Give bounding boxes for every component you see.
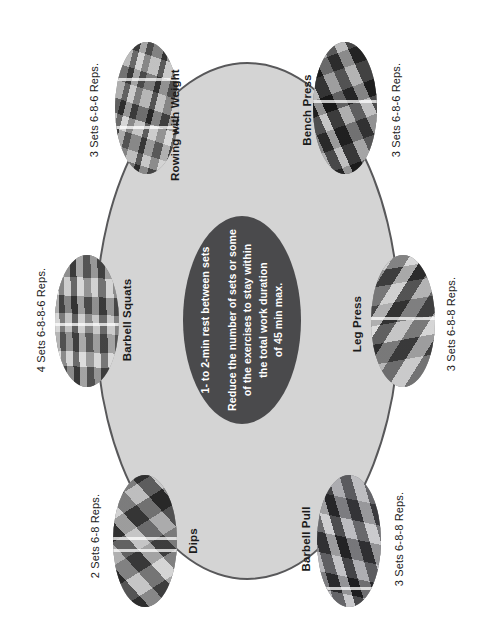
exercise-reps-leg-press: 3 Sets 6-8-8 Reps.: [445, 261, 457, 387]
exercise-name-dips: Dips: [187, 496, 199, 586]
photo-seam: [317, 587, 381, 590]
photo-seam: [113, 537, 177, 540]
exercise-photo-leg-press: [371, 255, 435, 387]
exercise-reps-barbell-pull: 3 Sets 6-8-8 Reps.: [393, 476, 405, 602]
exercise-name-barbell-squats: Barbell Squats: [121, 259, 133, 381]
exercise-photo-barbell-squats: [55, 255, 119, 387]
photo-seam: [55, 323, 119, 326]
photo-texture: [55, 255, 119, 387]
center-note-ellipse: 1- to 2-min rest between sets Reduce the…: [183, 216, 301, 424]
exercise-photo-bench-press: [313, 42, 377, 174]
center-note-text: 1- to 2-min rest between sets Reduce the…: [198, 224, 287, 416]
circuit-training-diagram: 1- to 2-min rest between sets Reduce the…: [0, 0, 495, 643]
exercise-name-rowing-with-weight: Rowing with Weight: [169, 60, 181, 190]
photo-texture: [313, 42, 377, 174]
photo-seam: [313, 100, 377, 103]
exercise-name-barbell-pull: Barbell Pull: [300, 483, 312, 595]
exercise-name-leg-press: Leg Press: [351, 269, 363, 379]
center-note-line-3: of the exercises to stay within: [241, 244, 253, 396]
exercise-photo-barbell-pull: [317, 475, 381, 607]
center-note-line-4: the total work duration: [256, 262, 268, 377]
photo-texture: [113, 475, 177, 607]
exercise-name-bench-press: Bench Press: [301, 50, 313, 170]
exercise-reps-dips: 2 Sets 6-8 Reps.: [89, 477, 101, 595]
photo-seam: [371, 317, 435, 320]
center-note-line-5: of 45 min max.: [272, 283, 284, 357]
photo-texture: [371, 255, 435, 387]
exercise-photo-dips: [113, 475, 177, 607]
photo-seam: [113, 549, 177, 552]
center-note-line-1: 1- to 2-min rest between sets: [198, 224, 214, 416]
exercise-reps-rowing-with-weight: 3 Sets 6-8-6 Reps.: [88, 49, 100, 171]
exercise-reps-bench-press: 3 Sets 6-8-6 Reps.: [390, 49, 402, 171]
exercise-reps-barbell-squats: 4 Sets 6-8-8-6 Reps.: [35, 255, 47, 385]
center-note-line-2: Reduce the number of sets or some: [225, 229, 237, 411]
